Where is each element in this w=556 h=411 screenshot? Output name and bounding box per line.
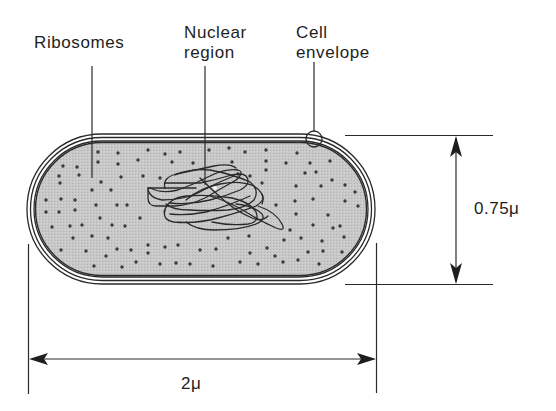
label-nuclear-region-line2: region [184,43,235,62]
cytoplasm [36,143,367,276]
nuclear-highlight [213,186,217,190]
dimension-length-label: 2μ [181,374,201,394]
dimension-width-label: 0.75μ [474,199,519,219]
bacterial-cell-diagram [0,0,556,411]
label-ribosomes: Ribosomes [34,33,124,52]
label-cell-envelope-line2: envelope [296,43,370,62]
label-nuclear-region-line1: Nuclear [184,23,247,42]
label-cell-envelope-line1: Cell [296,23,328,42]
width-dimension [345,136,493,285]
